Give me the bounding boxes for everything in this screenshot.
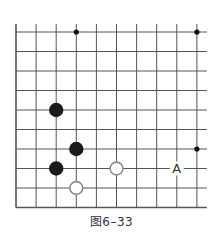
figure-caption: 图6–33 <box>0 212 223 229</box>
star-point-icon <box>194 146 199 151</box>
star-point-icon <box>74 29 79 34</box>
board-grid <box>16 24 207 208</box>
star-point-icon <box>194 29 199 34</box>
board-labels: A <box>172 161 181 176</box>
black-stone-icon <box>69 142 83 156</box>
go-board: A <box>0 0 223 212</box>
point-label: A <box>172 161 181 176</box>
white-stone-icon <box>70 182 83 195</box>
white-stone-icon <box>110 162 123 175</box>
black-stone-icon <box>49 161 63 175</box>
black-stone-icon <box>49 103 63 117</box>
